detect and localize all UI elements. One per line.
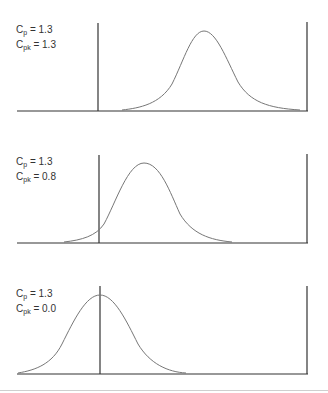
normal-curve <box>122 31 300 110</box>
panel-cpk-0-0: Cp = 1.3 Cpk = 0.0 <box>0 264 328 390</box>
normal-curve <box>64 163 232 242</box>
bottom-divider <box>0 390 328 391</box>
panel-cpk-0-8: Cp = 1.3 Cpk = 0.8 <box>0 132 328 262</box>
panel-cpk-1-3: Cp = 1.3 Cpk = 1.3 <box>0 0 328 130</box>
distribution-plot <box>0 132 328 262</box>
distribution-plot <box>0 264 328 390</box>
normal-curve <box>18 295 186 373</box>
distribution-plot <box>0 0 328 130</box>
